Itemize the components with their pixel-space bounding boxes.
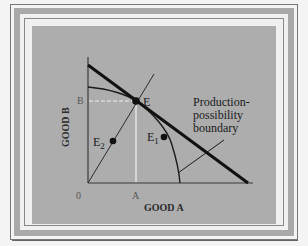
- diagram-figure: E E2 E1 B A 0 GOOD A GOOD B Production- …: [0, 0, 308, 246]
- y-axis-label: GOOD B: [60, 107, 71, 147]
- x-tick-label-A: A: [132, 190, 140, 201]
- point-E2: [110, 138, 117, 145]
- annotation-line-1: Production-: [193, 95, 250, 109]
- y-tick-label-B: B: [77, 95, 84, 106]
- label-E: E: [143, 95, 150, 109]
- annotation-line-2: possibility: [193, 108, 243, 122]
- point-E: [132, 97, 140, 105]
- annotation-line-3: boundary: [193, 121, 238, 135]
- x-axis-label: GOOD A: [144, 202, 185, 213]
- point-E1: [161, 134, 168, 141]
- origin-label: 0: [76, 190, 81, 201]
